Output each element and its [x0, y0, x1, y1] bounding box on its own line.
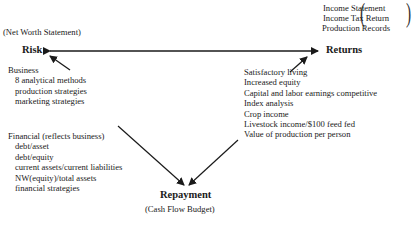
returns-measure: Index analysis [244, 98, 377, 108]
returns-measure: Value of production per person [244, 129, 377, 139]
net-worth-statement-label: (Net Worth Statement) [3, 27, 81, 37]
financial-item: NW(equity)/total assets [8, 173, 122, 183]
business-item: production strategies [8, 86, 87, 96]
returns-source: Income Statement [322, 3, 390, 13]
returns-source: Production Records [322, 23, 390, 33]
business-item: marketing strategies [8, 96, 87, 106]
financial-heading: Financial (reflects business) [8, 131, 122, 141]
business-item: 8 analytical methods [8, 75, 87, 85]
returns-label: Returns [326, 45, 362, 55]
risk-label: Risk [22, 45, 42, 55]
returns-measure: Satisfactory living [244, 67, 377, 77]
returns-measure: Livestock income/$100 feed fed [244, 119, 377, 129]
right-paren: ) [406, 0, 411, 27]
returns-sources: Income Statement Income Tax Return Produ… [322, 3, 390, 33]
financial-item: financial strategies [8, 183, 122, 193]
business-list: Business 8 analytical methods production… [8, 65, 87, 107]
financial-item: current assets/current liabilities [8, 162, 122, 172]
returns-measure: Increased equity [244, 77, 377, 87]
returns-source: Income Tax Return [322, 13, 390, 23]
financial-list: Financial (reflects business) debt/asset… [8, 131, 122, 193]
returns-to-repayment-arrow [189, 140, 238, 185]
returns-measure: Crop income [244, 109, 377, 119]
business-heading: Business [8, 65, 87, 75]
repayment-label: Repayment [160, 190, 211, 200]
returns-measures-list: Satisfactory living Increased equity Cap… [244, 67, 377, 140]
cash-flow-budget-label: (Cash Flow Budget) [145, 204, 215, 214]
risk-to-repayment-arrow [118, 126, 184, 185]
financial-item: debt/asset [8, 141, 122, 151]
financial-item: debt/equity [8, 152, 122, 162]
returns-measure: Capital and labor earnings competitive [244, 88, 377, 98]
